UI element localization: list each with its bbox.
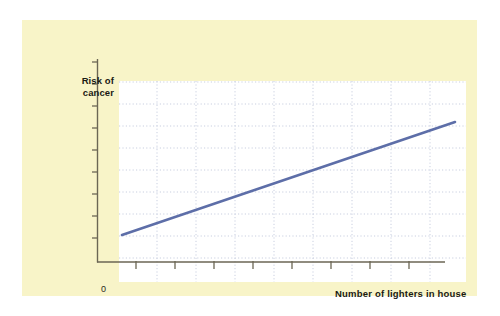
figure-container: 0 Risk of cancer Number of lighters in h… bbox=[0, 0, 500, 316]
y-axis-label: Risk of cancer bbox=[66, 75, 114, 98]
origin-tick-label: 0 bbox=[101, 284, 106, 294]
figure-panel: 0 Risk of cancer Number of lighters in h… bbox=[22, 20, 477, 296]
axes-svg bbox=[22, 20, 477, 296]
x-axis-label: Number of lighters in house bbox=[335, 288, 467, 299]
